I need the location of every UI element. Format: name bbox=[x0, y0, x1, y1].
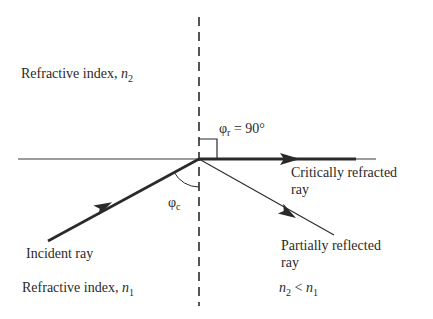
lower-medium-label: Refractive index, n1 bbox=[22, 280, 134, 298]
critical-angle-label: φc bbox=[168, 195, 181, 212]
reflected-ray-label-line2: ray bbox=[281, 255, 299, 270]
incident-ray bbox=[48, 159, 199, 241]
critical-angle-arc bbox=[174, 172, 199, 187]
refracted-ray-label-line2: ray bbox=[291, 182, 309, 197]
right-angle-marker bbox=[199, 139, 217, 159]
incident-ray-label: Incident ray bbox=[26, 246, 93, 261]
reflected-ray-label-line1: Partially reflected bbox=[281, 238, 381, 253]
refracted-ray-label-line1: Critically refracted bbox=[291, 165, 397, 180]
refraction-angle-label: φr = 90° bbox=[219, 121, 265, 138]
critical-angle-diagram: Refractive index, n2 φr = 90° Critically… bbox=[0, 0, 433, 319]
refractive-index-condition: n2 < n1 bbox=[279, 280, 318, 298]
upper-medium-label: Refractive index, n2 bbox=[21, 66, 133, 84]
